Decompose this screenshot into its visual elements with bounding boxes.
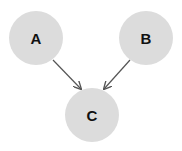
edge-b-to-c	[104, 60, 130, 89]
node-c: C	[65, 88, 119, 142]
node-c-label: C	[87, 107, 98, 124]
node-a: A	[9, 11, 63, 65]
node-b: B	[119, 11, 173, 65]
node-a-label: A	[31, 30, 42, 47]
edge-a-to-c	[53, 60, 81, 89]
diagram-canvas: A B C	[0, 0, 182, 151]
node-b-label: B	[141, 30, 152, 47]
